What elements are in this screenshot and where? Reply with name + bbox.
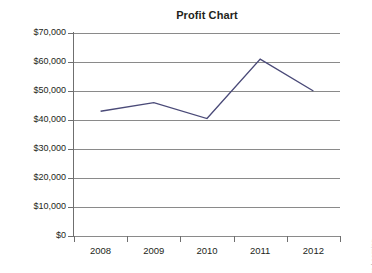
y-axis-tick-label: $10,000 xyxy=(4,201,66,211)
gridline xyxy=(74,236,340,237)
y-axis-tick xyxy=(68,62,74,63)
y-axis-tick-label: $0 xyxy=(4,230,66,240)
y-axis-tick-label: $30,000 xyxy=(4,143,66,153)
x-axis-tick xyxy=(287,236,288,242)
y-axis-tick xyxy=(68,178,74,179)
profit-line-path xyxy=(101,59,314,118)
x-axis-tick xyxy=(234,236,235,242)
y-axis-tick xyxy=(68,207,74,208)
y-axis-tick-label: $70,000 xyxy=(4,27,66,37)
x-axis-tick xyxy=(74,236,75,242)
y-axis-tick-label: $50,000 xyxy=(4,85,66,95)
y-axis-tick xyxy=(68,149,74,150)
x-axis-tick-label: 2008 xyxy=(74,245,128,256)
x-axis-tick-label: 2009 xyxy=(127,245,181,256)
y-axis-tick xyxy=(68,33,74,34)
y-axis-tick xyxy=(68,91,74,92)
y-axis-tick-label: $60,000 xyxy=(4,56,66,66)
x-axis-tick xyxy=(340,236,341,242)
y-axis-tick-label: $20,000 xyxy=(4,172,66,182)
x-axis-tick-label: 2011 xyxy=(233,245,287,256)
x-axis-tick-label: 2012 xyxy=(286,245,340,256)
plot-area xyxy=(74,33,340,236)
y-axis-tick xyxy=(68,236,74,237)
chart-title: Profit Chart xyxy=(74,9,340,21)
y-axis-labels: $0$10,000$20,000$30,000$40,000$50,000$60… xyxy=(0,0,66,273)
x-axis-tick-label: 2010 xyxy=(180,245,234,256)
x-axis-tick xyxy=(127,236,128,242)
y-axis-tick-label: $40,000 xyxy=(4,114,66,124)
x-axis-tick xyxy=(180,236,181,242)
profit-line-series xyxy=(74,33,340,236)
profit-chart-figure: Profit Chart $0$10,000$20,000$30,000$40,… xyxy=(0,0,372,273)
y-axis-tick xyxy=(68,120,74,121)
